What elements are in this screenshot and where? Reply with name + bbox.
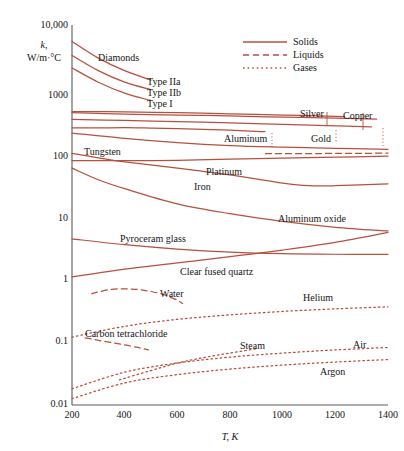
y-tick-10000: 10,000: [41, 19, 69, 30]
curve-carbon-tetrachloride: [85, 338, 148, 350]
curve-aluminum: [72, 128, 265, 132]
label-type-iia: Type IIa: [147, 76, 181, 87]
label-steam: Steam: [240, 340, 265, 351]
label-pyroceram-glass: Pyroceram glass: [120, 233, 186, 244]
label-tungsten: Tungsten: [84, 146, 121, 157]
y-tick-0.1: 0.1: [56, 335, 69, 346]
label-diamonds: Diamonds: [98, 52, 139, 63]
x-tick-1000: 1000: [272, 409, 292, 420]
x-tick-800: 800: [223, 409, 238, 420]
x-tick-1400: 1400: [378, 409, 398, 420]
y-tick-10: 10: [58, 212, 68, 223]
x-tick-400: 400: [117, 409, 132, 420]
label-clear-fused-quartz: Clear fused quartz: [180, 266, 254, 277]
x-tick-600: 600: [170, 409, 185, 420]
x-tick-labels: 200 400 600 800 1000 1200 1400: [65, 409, 399, 420]
y-tick-1: 1: [63, 273, 68, 284]
x-axis-title: T, K: [222, 431, 240, 442]
label-platinum: Platinum: [206, 166, 242, 177]
curve-liquid-metal: [266, 153, 388, 154]
label-silver: Silver: [300, 108, 325, 119]
label-aluminum-oxide: Aluminum oxide: [278, 213, 347, 224]
label-carbon-tetrachloride: Carbon tetrachloride: [85, 328, 168, 339]
label-water: Water: [160, 288, 184, 299]
label-gold: Gold: [311, 133, 331, 144]
thermal-conductivity-figure: 10,000 1000 100 10 1 0.1 0.01 k, W/m·°C …: [0, 0, 404, 451]
label-aluminum: Aluminum: [224, 133, 268, 144]
legend-label-gases: Gases: [293, 62, 317, 73]
label-copper: Copper: [343, 110, 373, 121]
legend-label-solids: Solids: [293, 36, 318, 47]
y-axis-units: W/m·°C: [27, 52, 61, 63]
y-axis-symbol: k,: [41, 39, 48, 50]
legend: Solids Liquids Gases: [243, 36, 324, 73]
label-air: Air: [353, 339, 367, 350]
y-tick-0.01: 0.01: [51, 398, 69, 409]
curve-type-i: [72, 68, 151, 101]
curve-annotations: DiamondsType IIaType IIbType ISilverCopp…: [84, 52, 373, 377]
chart-canvas: 10,000 1000 100 10 1 0.1 0.01 k, W/m·°C …: [0, 0, 404, 451]
label-helium: Helium: [303, 292, 333, 303]
label-type-iib: Type IIb: [147, 87, 181, 98]
label-iron: Iron: [194, 181, 211, 192]
y-tick-100: 100: [53, 150, 68, 161]
x-tick-200: 200: [65, 409, 80, 420]
legend-label-liquids: Liquids: [293, 49, 324, 60]
y-tick-labels: 10,000 1000 100 10 1 0.1 0.01: [41, 19, 69, 409]
x-tick-1200: 1200: [325, 409, 345, 420]
y-tick-1000: 1000: [48, 89, 68, 100]
curve-gold: [72, 119, 371, 126]
curve-steam: [119, 349, 256, 380]
label-argon: Argon: [320, 366, 345, 377]
y-axis-title: k, W/m·°C: [27, 39, 61, 63]
label-type-i: Type I: [147, 98, 173, 109]
